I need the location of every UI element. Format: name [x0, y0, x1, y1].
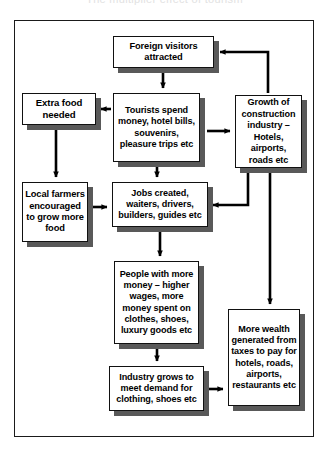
node-extra-food-needed[interactable]: Extra food needed: [22, 93, 96, 125]
node-foreign-visitors-attracted[interactable]: Foreign visitors attracted: [113, 36, 214, 68]
edge-growth-to-foreign: [220, 52, 268, 93]
node-growth-of-construction-industry-label: Growth of construction industry – Hotels…: [236, 97, 301, 166]
node-foreign-visitors-attracted-label: Foreign visitors attracted: [114, 41, 213, 64]
diagram-page: The multiplier effect of tourism: [0, 0, 329, 461]
node-jobs-created[interactable]: Jobs created, waiters, drivers, builders…: [112, 182, 208, 227]
node-people-with-more-money[interactable]: People with more money – higher wages, m…: [114, 261, 199, 344]
node-jobs-created-label: Jobs created, waiters, drivers, builders…: [113, 188, 207, 222]
node-extra-food-needed-label: Extra food needed: [23, 97, 95, 120]
node-more-wealth-generated-label: More wealth generated from taxes to pay …: [229, 324, 299, 391]
node-industry-grows[interactable]: Industry grows to meet demand for clothi…: [109, 366, 204, 411]
node-local-farmers-encouraged-label: Local farmers encouraged to grow more fo…: [23, 189, 87, 235]
node-local-farmers-encouraged[interactable]: Local farmers encouraged to grow more fo…: [22, 182, 88, 242]
node-people-with-more-money-label: People with more money – higher wages, m…: [115, 269, 198, 336]
node-tourists-spend-money[interactable]: Tourists spend money, hotel bills, souve…: [113, 93, 200, 162]
edge-growth-to-jobs: [213, 170, 248, 205]
node-growth-of-construction-industry[interactable]: Growth of construction industry – Hotels…: [235, 95, 302, 168]
node-more-wealth-generated[interactable]: More wealth generated from taxes to pay …: [228, 309, 300, 406]
node-tourists-spend-money-label: Tourists spend money, hotel bills, souve…: [114, 105, 199, 150]
node-industry-grows-label: Industry grows to meet demand for clothi…: [110, 372, 203, 406]
